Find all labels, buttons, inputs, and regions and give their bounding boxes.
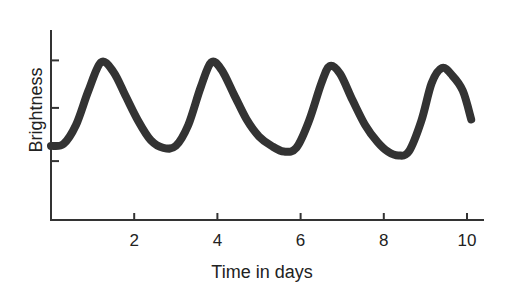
x-tick-label: 8 [379,231,388,250]
x-axis-title: Time in days [211,262,312,282]
x-tick-label: 6 [296,231,305,250]
brightness-curve [51,61,471,155]
x-ticks: 246810 [129,213,476,250]
x-tick-label: 4 [213,231,222,250]
x-tick-label: 10 [458,231,477,250]
brightness-chart: 246810 Time in days Brightness [0,0,506,296]
x-tick-label: 2 [129,231,138,250]
y-axis-title: Brightness [26,67,46,152]
